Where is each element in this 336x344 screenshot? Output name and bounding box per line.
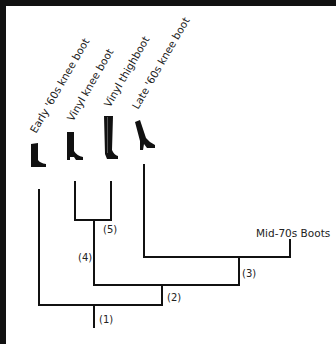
leaf-label-late60s: Late '60s knee boot	[129, 15, 191, 111]
node-label-3: (3)	[242, 268, 256, 279]
cladogram-svg: Early '60s knee boot Vinyl knee boot Vin…	[0, 0, 336, 344]
cladogram-figure: Early '60s knee boot Vinyl knee boot Vin…	[0, 0, 336, 344]
node-label-4: (4)	[78, 252, 92, 263]
knee-boot-icon	[31, 143, 46, 167]
heeled-knee-boot-icon	[135, 120, 155, 150]
knee-boot-icon	[67, 132, 83, 160]
node-label-1: (1)	[99, 314, 113, 325]
node-label-2: (2)	[167, 292, 181, 303]
terminal-label-mid70s: Mid-70s Boots	[256, 227, 330, 239]
tree-branches	[39, 165, 290, 327]
node-label-5: (5)	[103, 224, 117, 235]
thigh-boot-icon	[104, 116, 118, 159]
